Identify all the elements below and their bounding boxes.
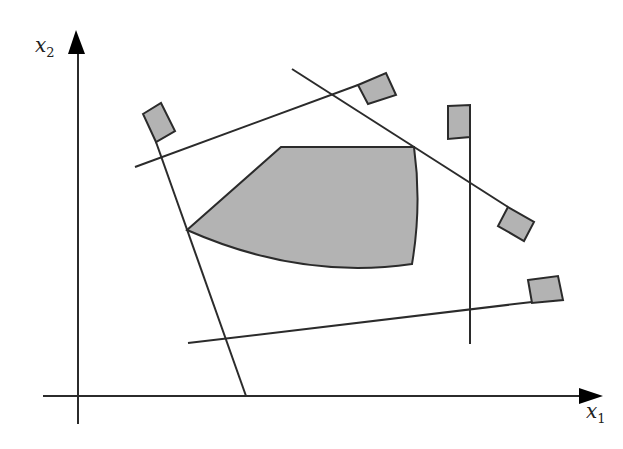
- x-axis-label: x1: [586, 399, 606, 426]
- feasible-region: [187, 147, 418, 268]
- constraint-line: [188, 302, 532, 343]
- y-axis-label: x2: [35, 33, 55, 60]
- diagram-canvas: x2 x1: [0, 0, 623, 449]
- constraint-direction-box: [143, 103, 175, 142]
- constraint-direction-box: [358, 73, 396, 104]
- constraint-5: [188, 276, 563, 343]
- y-axis-arrow-icon: [68, 30, 85, 54]
- constraint-direction-box: [448, 105, 470, 139]
- constraint-direction-box: [498, 207, 534, 241]
- constraint-line: [156, 142, 246, 396]
- constraint-1: [143, 103, 246, 396]
- constraint-4: [448, 105, 470, 344]
- constraint-direction-box: [528, 276, 563, 303]
